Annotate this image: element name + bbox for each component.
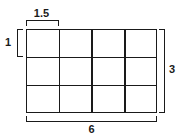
dimension-label-left: 1 <box>2 37 14 48</box>
dimension-label-right: 3 <box>166 64 178 75</box>
dimension-bracket-top <box>26 20 59 26</box>
dimension-bracket-left <box>17 29 23 57</box>
grid-column-divider <box>124 30 126 112</box>
grid-column-divider <box>91 30 93 112</box>
dimension-bracket-right <box>159 29 165 113</box>
grid-column-divider <box>59 30 61 112</box>
dimension-label-top: 1.5 <box>26 8 57 19</box>
dimension-label-bottom: 6 <box>26 124 157 135</box>
dimension-bracket-bottom <box>26 116 157 122</box>
grid-rectangle <box>26 29 157 113</box>
grid-row-divider <box>27 85 156 87</box>
grid-row-divider <box>27 57 156 59</box>
dimensioned-grid-diagram: 1.5 1 3 6 <box>0 0 186 139</box>
